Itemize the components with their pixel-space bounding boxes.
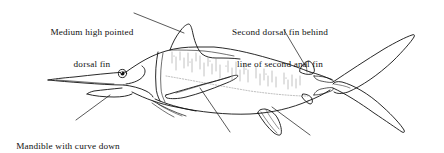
leader-mandible	[76, 95, 110, 120]
leader-pectoral-fins	[200, 88, 230, 132]
gill-plate-line-2	[161, 53, 165, 102]
first-anal-fin-ray-2	[266, 110, 279, 129]
callout-mandible: Mandible with curve down but not hooked	[8, 120, 128, 153]
callout-second-dorsal-fin-line1: Second dorsal fin behind	[222, 27, 338, 38]
body-ventral-contour	[132, 92, 308, 114]
callout-dorsal-fin-line1: Medium high pointed	[36, 27, 148, 38]
leader-anal-fin	[272, 107, 310, 135]
pelvic-fin-ray-2	[153, 101, 186, 116]
callout-dorsal-fin-line2: dorsal fin	[36, 59, 148, 70]
caudal-peduncle-lower	[308, 90, 330, 101]
caudal-fin-lower-lobe	[333, 82, 404, 133]
callout-second-dorsal-fin: Second dorsal fin behind line of second …	[222, 6, 338, 91]
callout-anal-fin: Anal fin moderately deep	[312, 133, 442, 153]
callout-mandible-line1: Mandible with curve down	[8, 141, 128, 152]
gill-plate-line	[156, 52, 160, 101]
callout-second-dorsal-fin-line2: line of second anal fin	[222, 59, 338, 70]
callout-dorsal-fin: Medium high pointed dorsal fin	[36, 6, 148, 91]
fish-anatomy-figure: Medium high pointed dorsal fin Second do…	[0, 0, 444, 153]
caudal-fin-upper-lobe	[333, 35, 414, 94]
callout-pectoral-fins: Pectoral fins fold flat	[170, 133, 290, 153]
